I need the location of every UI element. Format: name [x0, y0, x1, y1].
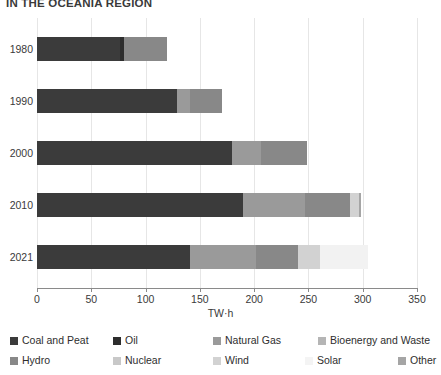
legend-swatch-icon: [305, 357, 313, 365]
legend-label: Other: [410, 355, 436, 366]
bar-row-2021[interactable]: [37, 245, 368, 269]
bar-segment-1990-natural-gas[interactable]: [177, 89, 190, 113]
bar-segment-2010-coal-and-peat[interactable]: [37, 193, 243, 217]
y-tick-label-2021: 2021: [3, 251, 33, 263]
bar-segment-2021-hydro[interactable]: [256, 245, 297, 269]
tick-350: [417, 288, 418, 292]
bar-segment-1980-hydro[interactable]: [124, 37, 167, 61]
tick-0: [37, 288, 38, 292]
x-axis-line: [37, 288, 418, 289]
plot-area: [37, 18, 417, 288]
bar-segment-1990-coal-and-peat[interactable]: [37, 89, 177, 113]
x-tick-label-250: 250: [300, 293, 318, 305]
y-tick-label-1980: 1980: [3, 43, 33, 55]
bar-row-1980[interactable]: [37, 37, 167, 61]
legend-item-coal-and-peat[interactable]: Coal and Peat: [10, 335, 89, 346]
legend-label: Wind: [225, 355, 249, 366]
legend-swatch-icon: [113, 357, 121, 365]
chart-title: IN THE OCEANIA REGION: [6, 0, 152, 9]
bar-segment-2010-other[interactable]: [359, 193, 360, 217]
legend-item-bioenergy-and-waste[interactable]: Bioenergy and Waste: [318, 335, 430, 346]
legend-item-nuclear[interactable]: Nuclear: [113, 355, 161, 366]
bar-segment-2000-natural-gas[interactable]: [232, 141, 260, 165]
bar-row-2010[interactable]: [37, 193, 361, 217]
legend-label: Natural Gas: [225, 335, 281, 346]
bar-segment-2000-coal-and-peat[interactable]: [37, 141, 232, 165]
y-tick-label-2010: 2010: [3, 199, 33, 211]
tick-300: [363, 288, 364, 292]
legend-item-hydro[interactable]: Hydro: [10, 355, 50, 366]
bar-segment-1980-coal-and-peat[interactable]: [37, 37, 120, 61]
tick-50: [91, 288, 92, 292]
bar-row-1990[interactable]: [37, 89, 222, 113]
legend-label: Oil: [125, 335, 138, 346]
chart-legend: Coal and PeatOilNatural GasBioenergy and…: [0, 332, 441, 375]
bar-segment-2010-wind[interactable]: [350, 193, 360, 217]
bar-row-2000[interactable]: [37, 141, 307, 165]
legend-item-solar[interactable]: Solar: [305, 355, 342, 366]
bar-segment-2010-natural-gas[interactable]: [243, 193, 305, 217]
legend-swatch-icon: [318, 337, 326, 345]
x-tick-label-300: 300: [354, 293, 372, 305]
bar-segment-2021-solar[interactable]: [320, 245, 368, 269]
legend-item-oil[interactable]: Oil: [113, 335, 138, 346]
legend-label: Bioenergy and Waste: [330, 335, 430, 346]
legend-label: Hydro: [22, 355, 50, 366]
legend-swatch-icon: [213, 357, 221, 365]
bar-segment-1990-hydro[interactable]: [190, 89, 221, 113]
legend-swatch-icon: [10, 357, 18, 365]
tick-250: [308, 288, 309, 292]
chart-page: IN THE OCEANIA REGION 050100150200250300…: [0, 0, 441, 375]
bar-segment-2021-natural-gas[interactable]: [190, 245, 256, 269]
y-tick-label-1990: 1990: [3, 95, 33, 107]
legend-label: Coal and Peat: [22, 335, 89, 346]
x-tick-label-200: 200: [245, 293, 263, 305]
y-tick-label-2000: 2000: [3, 147, 33, 159]
bar-segment-2021-wind[interactable]: [298, 245, 321, 269]
y-tick-labels: 19801990200020102021: [0, 18, 33, 288]
legend-swatch-icon: [213, 337, 221, 345]
x-tick-label-150: 150: [191, 293, 209, 305]
x-tick-label-0: 0: [34, 293, 40, 305]
legend-swatch-icon: [398, 357, 406, 365]
bar-segment-2000-hydro[interactable]: [261, 141, 308, 165]
x-tick-label-100: 100: [137, 293, 155, 305]
legend-label: Nuclear: [125, 355, 161, 366]
tick-150: [200, 288, 201, 292]
legend-item-natural-gas[interactable]: Natural Gas: [213, 335, 281, 346]
bar-segment-2010-hydro[interactable]: [305, 193, 350, 217]
x-tick-label-50: 50: [85, 293, 97, 305]
legend-swatch-icon: [10, 337, 18, 345]
tick-100: [146, 288, 147, 292]
bar-segment-2021-coal-and-peat[interactable]: [37, 245, 190, 269]
x-axis-title: TW·h: [0, 307, 441, 319]
legend-swatch-icon: [113, 337, 121, 345]
gridline-350: [417, 18, 418, 288]
x-tick-label-350: 350: [408, 293, 426, 305]
legend-label: Solar: [317, 355, 342, 366]
tick-200: [254, 288, 255, 292]
legend-item-other[interactable]: Other: [398, 355, 436, 366]
legend-item-wind[interactable]: Wind: [213, 355, 249, 366]
